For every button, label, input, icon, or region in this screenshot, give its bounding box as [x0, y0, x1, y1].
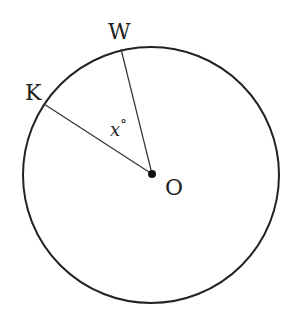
angle-label: x° — [110, 117, 127, 140]
center-point-o — [148, 170, 156, 178]
radius-ow — [121, 49, 152, 174]
center-label-o: O — [165, 175, 183, 200]
degree-symbol: ° — [120, 117, 127, 132]
angle-variable: x — [110, 119, 120, 140]
radius-ok — [44, 104, 152, 174]
point-label-k: K — [25, 80, 42, 105]
point-label-w: W — [108, 19, 131, 44]
circle-diagram: W K O x° — [0, 0, 295, 322]
